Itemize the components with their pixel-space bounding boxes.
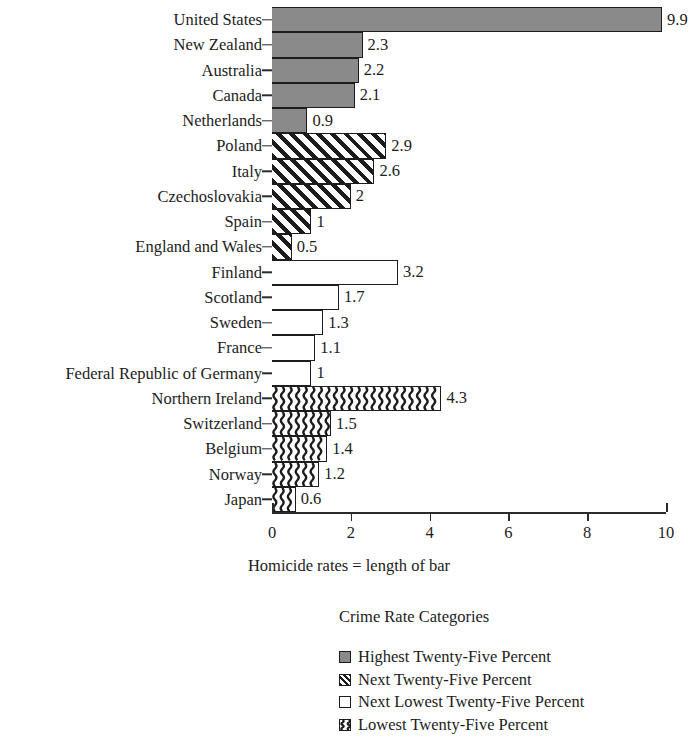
bar-row: 1.4 <box>272 436 692 461</box>
category-label: Japan <box>0 487 262 512</box>
bar-wavy <box>272 386 441 411</box>
category-label: New Zealand <box>0 32 262 57</box>
category-label: Switzerland <box>0 411 262 436</box>
legend-label: Highest Twenty-Five Percent <box>358 647 551 667</box>
bar-value-label: 1.1 <box>320 340 341 357</box>
category-tick <box>262 436 272 461</box>
category-tick <box>262 335 272 360</box>
bar-value-label: 2.6 <box>379 163 400 180</box>
category-tick <box>262 234 272 259</box>
category-tick <box>262 260 272 285</box>
bar-row: 2.1 <box>272 83 692 108</box>
bar-row: 1.2 <box>272 462 692 487</box>
bar-solid <box>272 108 307 133</box>
bar-white <box>272 335 315 360</box>
value-axis: 0246810 <box>272 512 668 513</box>
bar-value-label: 0.9 <box>312 112 333 129</box>
category-tick <box>262 7 272 32</box>
bar-value-label: 0.6 <box>301 491 322 508</box>
category-label: England and Wales <box>0 234 262 259</box>
legend-item: Next Twenty-Five Percent <box>339 669 584 692</box>
category-tick <box>262 209 272 234</box>
legend: Crime Rate Categories Highest Twenty-Fiv… <box>339 607 584 736</box>
bar-white <box>272 361 311 386</box>
category-label: Sweden <box>0 310 262 335</box>
category-label: Belgium <box>0 436 262 461</box>
bar-hatch <box>272 184 351 209</box>
axis-tick-label: 6 <box>504 523 512 543</box>
category-tick <box>262 58 272 83</box>
bar-value-label: 1.7 <box>344 289 365 306</box>
category-tick <box>262 159 272 184</box>
bar-row: 4.3 <box>272 386 692 411</box>
category-label: France <box>0 335 262 360</box>
category-label: Spain <box>0 209 262 234</box>
bar-white <box>272 260 398 285</box>
bar-row: 1.1 <box>272 335 692 360</box>
category-tick <box>262 386 272 411</box>
bar-value-label: 3.2 <box>403 264 424 281</box>
bar-row: 1 <box>272 361 692 386</box>
bar-row: 0.5 <box>272 234 692 259</box>
bar-solid <box>272 7 662 32</box>
legend-item: Lowest Twenty-Five Percent <box>339 714 584 737</box>
bar-value-label: 2.2 <box>364 62 385 79</box>
axis-tick <box>430 512 432 521</box>
bar-value-label: 1.5 <box>336 415 357 432</box>
bar-value-label: 2.3 <box>368 37 389 54</box>
bar-row: 2.9 <box>272 133 692 158</box>
bar-row: 0.9 <box>272 108 692 133</box>
category-tick <box>262 184 272 209</box>
legend-swatch-solid-icon <box>339 651 351 663</box>
axis-tick <box>272 503 274 512</box>
axis-tick-label: 2 <box>347 523 355 543</box>
bar-value-label: 0.5 <box>297 239 318 256</box>
category-tick <box>262 108 272 133</box>
bar-value-label: 4.3 <box>446 390 467 407</box>
category-label: Finland <box>0 260 262 285</box>
category-label: Italy <box>0 159 262 184</box>
category-label: Scotland <box>0 285 262 310</box>
legend-label: Next Lowest Twenty-Five Percent <box>358 692 584 712</box>
plot-area: United StatesNew ZealandAustraliaCanadaN… <box>0 0 698 530</box>
legend-item: Highest Twenty-Five Percent <box>339 646 584 669</box>
bar-row: 2 <box>272 184 692 209</box>
bar-value-label: 1 <box>316 365 324 382</box>
legend-label: Lowest Twenty-Five Percent <box>358 715 548 735</box>
bar-wavy <box>272 487 296 512</box>
bar-row: 2.3 <box>272 32 692 57</box>
x-axis-title: Homicide rates = length of bar <box>0 556 698 576</box>
bar-row: 2.2 <box>272 58 692 83</box>
legend-swatch-hatch-icon <box>339 674 351 686</box>
legend-items: Highest Twenty-Five PercentNext Twenty-F… <box>339 646 584 736</box>
axis-tick-label: 0 <box>268 523 276 543</box>
category-tickmarks <box>262 7 272 512</box>
category-tick <box>262 310 272 335</box>
bar-solid <box>272 32 363 57</box>
bar-value-label: 2 <box>356 188 364 205</box>
axis-tick-label: 10 <box>658 523 675 543</box>
bar-hatch <box>272 159 374 184</box>
bar-row: 1.7 <box>272 285 692 310</box>
category-label: Canada <box>0 83 262 108</box>
homicide-rates-bar-chart: United StatesNew ZealandAustraliaCanadaN… <box>0 0 698 754</box>
bar-value-label: 2.9 <box>391 138 412 155</box>
bar-row: 3.2 <box>272 260 692 285</box>
category-tick <box>262 285 272 310</box>
category-label: United States <box>0 7 262 32</box>
axis-tick-label: 8 <box>583 523 591 543</box>
bar-row: 0.6 <box>272 487 692 512</box>
legend-swatch-white-icon <box>339 696 351 708</box>
category-label: Norway <box>0 462 262 487</box>
bar-white <box>272 310 323 335</box>
bar-value-label: 1 <box>316 213 324 230</box>
axis-line <box>272 512 666 514</box>
bar-row: 1 <box>272 209 692 234</box>
bar-wavy <box>272 462 319 487</box>
bar-row: 1.5 <box>272 411 692 436</box>
bar-solid <box>272 83 355 108</box>
bar-value-label: 1.2 <box>324 466 345 483</box>
bars-container: 9.92.32.22.10.92.92.6210.53.21.71.31.114… <box>272 7 692 512</box>
bar-wavy <box>272 411 331 436</box>
category-label: Federal Republic of Germany <box>0 361 262 386</box>
